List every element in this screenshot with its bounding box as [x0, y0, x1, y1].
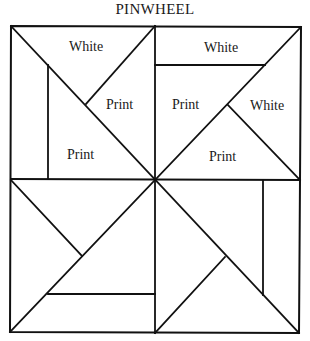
label-tr-print-bottom: Print [209, 149, 236, 164]
br-inner-diagonal [155, 257, 225, 333]
bl-inner-diagonal [11, 180, 82, 256]
label-tl-white: White [69, 39, 103, 54]
tr-inner-diagonal [228, 105, 300, 180]
label-tl-print-bottom: Print [67, 147, 94, 162]
label-tr-white-right: White [250, 98, 284, 113]
label-tr-white-top: White [204, 40, 238, 55]
label-tr-print-left: Print [172, 97, 199, 112]
label-tl-print-right: Print [106, 97, 133, 112]
pinwheel-block-diagram: White Print Print White Print White Prin… [0, 0, 310, 341]
tl-inner-diagonal [86, 26, 155, 104]
